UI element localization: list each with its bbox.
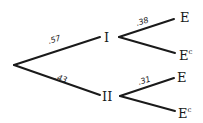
prob-I-to-E: .38	[135, 16, 150, 28]
prob-II-to-E: .31	[137, 75, 152, 87]
leaf-I-E: E	[180, 10, 190, 25]
prob-root-to-I: .57	[47, 33, 63, 46]
node-I: I	[104, 30, 109, 45]
leaf-II-Ec: Ec	[178, 106, 192, 121]
leaf-II-E: E	[177, 70, 187, 85]
edge-I-to-Ec	[119, 37, 175, 53]
prob-root-to-II: .43	[53, 72, 68, 84]
edge-II-to-Ec	[120, 96, 175, 111]
probability-tree-diagram: .57 .43 I II .38 .31 E Ec E Ec	[0, 0, 203, 123]
leaf-I-Ec: Ec	[179, 48, 193, 63]
node-II: II	[102, 89, 112, 104]
